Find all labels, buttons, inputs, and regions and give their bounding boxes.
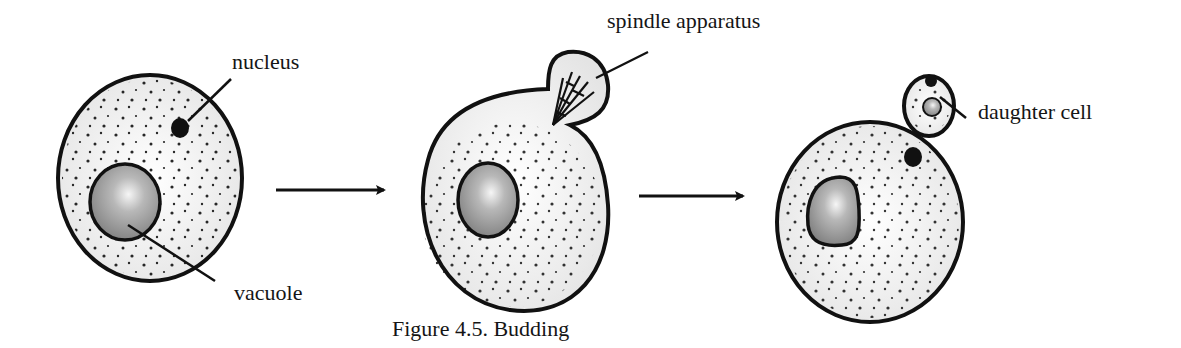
nucleus <box>904 147 922 167</box>
daughter-cell-label: daughter cell <box>978 101 1092 123</box>
vacuole <box>458 163 518 237</box>
daughter-vacuole <box>923 98 941 116</box>
vacuole <box>90 164 160 240</box>
figure-caption: Figure 4.5. Budding <box>392 318 569 340</box>
nucleus-label: nucleus <box>232 51 299 73</box>
budding-diagram <box>0 0 1181 348</box>
spindle-apparatus-label: spindle apparatus <box>607 10 760 32</box>
stage-3-daughter-cell <box>777 75 966 322</box>
vacuole-label: vacuole <box>234 282 302 304</box>
daughter-nucleus <box>925 75 937 87</box>
nucleus <box>171 118 189 138</box>
vacuole <box>808 177 860 245</box>
stage-1-parent-cell <box>58 75 242 281</box>
spindle-leader-line <box>596 52 648 78</box>
stage-2-bud-forming <box>422 52 648 311</box>
